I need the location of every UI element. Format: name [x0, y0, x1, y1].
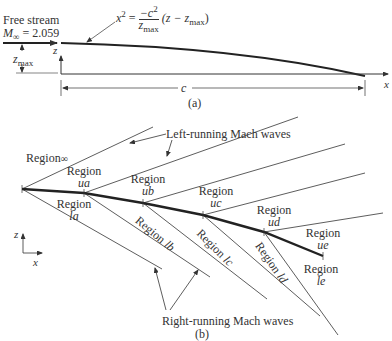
mini-x-label: x — [33, 256, 38, 268]
region-ub: Regionub — [130, 173, 166, 197]
diagram-canvas — [0, 0, 392, 341]
chord-label: c — [181, 82, 186, 94]
mini-z-label: z — [14, 228, 18, 240]
region-freestream: Region∞ — [26, 152, 68, 165]
mach-number-label: M∞ = 2.059 — [3, 27, 59, 43]
airfoil-surface — [61, 43, 365, 76]
zmax-label: zmax — [13, 53, 33, 69]
region-uc: Regionuc — [198, 185, 234, 209]
surface-equation: x2 = −c2 zmax (z − zmax) — [116, 4, 209, 35]
right-running-waves-label: Right-running Mach waves — [162, 315, 293, 327]
caption-b: (b) — [195, 328, 209, 340]
equation-pointer-arrow — [87, 22, 115, 42]
region-ue: Regionue — [305, 227, 341, 251]
region-le: Regionle — [303, 263, 339, 287]
equation-fraction: −c2 zmax — [139, 4, 159, 35]
right-label-pointer — [155, 268, 166, 310]
left-running-wave — [143, 144, 345, 203]
x-axis-label: x — [384, 78, 389, 90]
region-la: Regionla — [56, 198, 92, 222]
right-label-pointer — [170, 270, 198, 310]
region-ud: Regionud — [256, 204, 292, 228]
z-axis-label: z — [53, 44, 57, 56]
region-ua: Regionua — [66, 165, 102, 189]
right-running-wave — [143, 203, 267, 299]
caption-a: (a) — [188, 97, 201, 109]
left-label-pointer — [167, 140, 172, 156]
left-running-waves-label: Left-running Mach waves — [166, 128, 291, 140]
free-stream-label: Free stream — [3, 14, 59, 26]
